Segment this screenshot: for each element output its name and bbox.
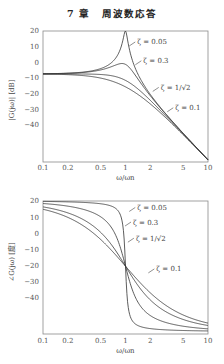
x-tick-label: 1: [123, 164, 127, 172]
annotation-leader: [128, 238, 134, 242]
curve-0-05: [43, 31, 208, 160]
phase-x-ticks: 0.10.20.512510: [37, 337, 212, 345]
annotation-leader: [135, 61, 141, 65]
phase-y-ticks: 20100−10−20−30−40: [24, 197, 39, 302]
y-tick-label: 0: [35, 59, 39, 67]
x-tick-label: 0.1: [37, 164, 48, 172]
curve-annotation: ζ = 0.05: [137, 204, 167, 212]
curve-1: [43, 209, 208, 323]
y-tick-label: 20: [30, 197, 39, 205]
annotation-leader: [125, 222, 131, 226]
y-tick-label: −40: [24, 294, 39, 302]
phase-x-axis-label: ω/ωn: [116, 347, 135, 355]
y-tick-label: 10: [30, 214, 39, 222]
x-tick-label: 0.5: [95, 164, 106, 172]
phase-y-axis-label: ∠G(jω) [度]: [7, 242, 16, 282]
x-tick-label: 0.5: [95, 337, 106, 345]
x-tick-label: 5: [181, 337, 185, 345]
y-tick-label: −20: [24, 90, 39, 98]
curve-annotation: ζ = 0.3: [133, 219, 158, 227]
annotation-leader: [129, 42, 135, 46]
x-tick-label: 0.2: [62, 337, 73, 345]
curve-annotation: ζ = 0.05: [137, 38, 167, 46]
magnitude-y-axis-label: |G(jω)| [dB]: [8, 79, 16, 120]
curve-annotation: ζ = 0.1: [156, 265, 181, 273]
y-tick-label: 0: [35, 230, 39, 238]
y-tick-label: −30: [24, 278, 39, 286]
x-tick-label: 0.1: [37, 337, 48, 345]
annotation-leader: [153, 87, 159, 91]
x-tick-label: 1: [123, 337, 127, 345]
y-tick-label: −30: [24, 106, 39, 114]
x-tick-label: 2: [148, 164, 152, 172]
magnitude-annotations: ζ = 0.05ζ = 0.3ζ = 1/√2ζ = 0.1: [129, 38, 200, 112]
curve-annotation: ζ = 0.1: [175, 104, 200, 112]
magnitude-plot-frame: [43, 31, 208, 162]
magnitude-x-axis-label: ω/ωn: [116, 174, 135, 182]
annotation-leader: [148, 269, 154, 273]
y-tick-label: −40: [24, 121, 39, 129]
phase-chart: 20100−10−20−30−40 0.10.20.512510 ζ = 0.0…: [7, 197, 212, 355]
x-tick-label: 5: [181, 164, 185, 172]
y-tick-label: −10: [24, 246, 39, 254]
curve-annotation: ζ = 0.3: [143, 57, 168, 65]
x-tick-label: 0.2: [62, 164, 73, 172]
x-tick-label: 2: [148, 337, 152, 345]
phase-curves: [43, 201, 208, 331]
y-tick-label: −20: [24, 262, 39, 270]
annotation-leader: [129, 207, 135, 211]
x-tick-label: 10: [204, 337, 213, 345]
magnitude-curves: [43, 31, 208, 160]
annotation-leader: [167, 108, 173, 112]
y-tick-label: 10: [30, 43, 39, 51]
phase-annotations: ζ = 0.05ζ = 0.3ζ = 1/√2ζ = 0.1: [125, 204, 182, 273]
x-tick-label: 10: [204, 164, 213, 172]
magnitude-chart: 20100−10−20−30−40 0.10.20.512510 ζ = 0.0…: [8, 27, 212, 182]
magnitude-x-ticks: 0.10.20.512510: [37, 164, 212, 172]
curve-annotation: ζ = 1/√2: [161, 84, 191, 92]
y-tick-label: −10: [24, 74, 39, 82]
magnitude-y-ticks: 20100−10−20−30−40: [24, 27, 39, 129]
y-tick-label: 20: [30, 27, 39, 35]
curve-annotation: ζ = 1/√2: [136, 235, 166, 243]
bode-plots: 20100−10−20−30−40 0.10.20.512510 ζ = 0.0…: [0, 0, 224, 364]
